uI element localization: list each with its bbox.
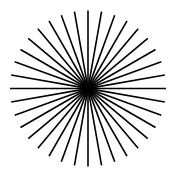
center-dot xyxy=(85,85,92,92)
star-svg xyxy=(0,0,175,176)
siemens-star-diagram xyxy=(0,0,175,176)
